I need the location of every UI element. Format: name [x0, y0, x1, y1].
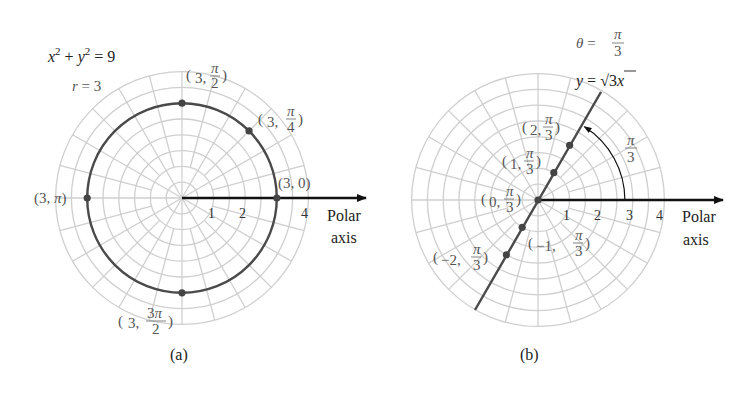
svg-text:): )	[585, 235, 590, 252]
svg-text:2: 2	[152, 321, 160, 337]
svg-text:π: π	[545, 111, 553, 127]
point-marker	[534, 196, 541, 203]
svg-text:−1,: −1,	[536, 238, 556, 254]
point-marker	[245, 127, 252, 134]
point-marker	[566, 142, 573, 149]
svg-text:3π: 3π	[147, 305, 163, 321]
svg-text:1,: 1,	[510, 156, 521, 172]
svg-text:3,: 3,	[267, 114, 278, 130]
svg-text:(: (	[528, 235, 533, 252]
svg-text:3: 3	[614, 43, 622, 59]
equation-line: y = √3x	[574, 71, 636, 90]
svg-text:(3, π): (3, π)	[34, 190, 67, 207]
svg-text:y = √3x: y = √3x	[574, 72, 624, 90]
svg-text:(3, 0): (3, 0)	[278, 175, 311, 192]
point-marker	[503, 251, 510, 258]
svg-text:3: 3	[545, 127, 553, 143]
svg-text:): )	[536, 153, 541, 170]
tick-label: 2	[239, 206, 246, 221]
svg-text:π: π	[287, 103, 295, 119]
point-marker	[273, 194, 280, 201]
svg-text:(: (	[481, 191, 486, 208]
equation-theta: θ = π 3	[576, 26, 624, 59]
svg-text:(: (	[118, 313, 123, 330]
svg-text:3: 3	[506, 199, 514, 215]
svg-text:0,: 0,	[489, 194, 500, 210]
svg-text:(: (	[186, 67, 191, 84]
caption-a: (a)	[170, 346, 188, 364]
point-label-neg2-pi-over-3: ( −2, π 3 )	[433, 241, 488, 273]
point-label-3-3pi-over-2: ( 3, 3π 2 )	[118, 305, 173, 337]
svg-text:3: 3	[526, 161, 534, 177]
svg-text:2,: 2,	[530, 122, 541, 138]
svg-text:3: 3	[575, 243, 583, 259]
svg-text:(: (	[258, 111, 263, 128]
tick-label: 4	[656, 208, 663, 223]
tick-label: 4	[301, 206, 308, 221]
tick-label: 1	[563, 208, 570, 223]
figure: 124 x2 + y2 = 9 r = 3 (3, 0) ( 3, π 2 )	[0, 0, 752, 396]
svg-text:(: (	[502, 153, 507, 170]
svg-text:): )	[555, 119, 560, 136]
svg-text:): )	[516, 191, 521, 208]
svg-text:π: π	[627, 132, 635, 148]
svg-text:4: 4	[287, 119, 295, 135]
svg-text:(: (	[522, 119, 527, 136]
point-marker	[178, 289, 185, 296]
svg-text:): )	[483, 249, 488, 266]
panel-b-line-graph: 1234 θ = π 3 y = √3x π 3 ( 2, π	[412, 26, 723, 364]
polar-axis-label: Polar	[682, 208, 716, 225]
point-label-3-0: (3, 0)	[278, 175, 311, 192]
equation-cartesian: x2 + y2 = 9	[47, 45, 115, 66]
svg-text:π: π	[526, 145, 534, 161]
svg-text:π: π	[211, 60, 219, 76]
point-label-3-pi: (3, π)	[34, 190, 67, 207]
svg-text:2: 2	[211, 75, 219, 91]
svg-text:3: 3	[473, 257, 481, 273]
svg-text:π: π	[473, 241, 481, 257]
equation-polar: r = 3	[72, 78, 101, 94]
tick-label: 3	[626, 208, 633, 223]
tick-label: 1	[208, 206, 215, 221]
svg-text:3,: 3,	[195, 70, 206, 86]
svg-text:π: π	[506, 183, 514, 199]
tick-label: 2	[594, 208, 601, 223]
polar-axis-label-line2: axis	[683, 231, 709, 248]
angle-arc-pi-over-3	[584, 127, 624, 200]
svg-text:(: (	[433, 249, 438, 266]
polar-graphs-figure: 124 x2 + y2 = 9 r = 3 (3, 0) ( 3, π 2 )	[0, 0, 752, 396]
point-label-3-pi-over-2: ( 3, π 2 )	[186, 60, 227, 91]
svg-text:π: π	[575, 227, 583, 243]
svg-text:): )	[222, 67, 227, 84]
point-marker	[84, 194, 91, 201]
svg-text:): )	[168, 313, 173, 330]
panel-a-circle-graph: 124 x2 + y2 = 9 r = 3 (3, 0) ( 3, π 2 )	[34, 45, 366, 364]
svg-text:π: π	[614, 26, 622, 42]
svg-text:): )	[298, 111, 303, 128]
polar-axis-label-line2: axis	[331, 229, 357, 246]
svg-text:−2,: −2,	[441, 252, 461, 268]
point-marker	[178, 100, 185, 107]
point-marker	[550, 169, 557, 176]
svg-text:3: 3	[627, 149, 635, 165]
polar-axis-label: Polar	[327, 207, 361, 224]
svg-text:3,: 3,	[128, 315, 139, 331]
point-marker	[519, 224, 526, 231]
svg-text:θ =: θ =	[576, 35, 596, 51]
caption-b: (b)	[520, 346, 539, 364]
